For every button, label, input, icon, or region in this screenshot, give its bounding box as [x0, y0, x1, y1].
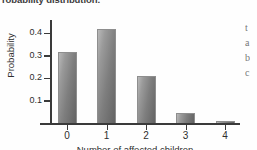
bar: [176, 113, 195, 124]
y-axis-tick: [44, 100, 50, 101]
adjacent-text-line: b: [245, 50, 257, 65]
x-axis-tick-label: 4: [210, 130, 240, 141]
y-axis-tick-labels: 0.10.20.30.4: [14, 8, 42, 128]
bar: [97, 29, 116, 124]
x-axis-tick-label: 2: [131, 130, 161, 141]
x-axis-tick-label: 0: [52, 130, 82, 141]
adjacent-text-line: c: [245, 65, 257, 80]
y-axis-tick: [44, 33, 50, 34]
bar-chart: Probability 0.10.20.30.4 Number of affec…: [0, 8, 240, 150]
bar: [137, 76, 156, 123]
y-axis-tick: [44, 55, 50, 56]
bar-series: [50, 20, 240, 123]
bar: [216, 121, 235, 123]
figure-caption: robability distribution:: [2, 0, 152, 6]
y-axis-tick: [44, 78, 50, 79]
figure-page: robability distribution: t a b c Probabi…: [0, 0, 257, 150]
x-axis-tick-label: 3: [171, 130, 201, 141]
adjacent-text-line: t: [245, 20, 257, 35]
x-axis-tick-label: 1: [92, 130, 122, 141]
figure-caption-text: robability distribution:: [2, 0, 152, 5]
y-axis-tick-label: 0.2: [16, 73, 42, 82]
x-axis-label: Number of affected children: [30, 144, 240, 150]
adjacent-column-text: t a b c: [243, 20, 257, 82]
y-axis-tick-label: 0.3: [16, 51, 42, 60]
y-axis-tick-label: 0.1: [16, 96, 42, 105]
adjacent-text-line: a: [245, 35, 257, 50]
x-axis-line: [40, 123, 240, 125]
y-axis-tick-label: 0.4: [16, 28, 42, 37]
bar: [58, 52, 77, 123]
